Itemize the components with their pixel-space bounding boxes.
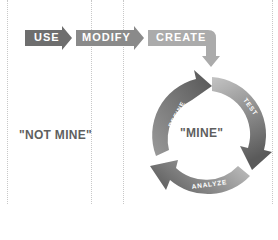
- not-mine-label: "NOT MINE": [19, 128, 92, 142]
- refine-arc: [152, 70, 212, 156]
- modify-label: MODIFY: [82, 31, 131, 43]
- analyze-arc: [150, 160, 250, 194]
- test-arc: [212, 77, 272, 170]
- use-label: USE: [34, 31, 60, 43]
- create-label: CREATE: [156, 31, 206, 43]
- mine-label: "MINE": [180, 126, 223, 140]
